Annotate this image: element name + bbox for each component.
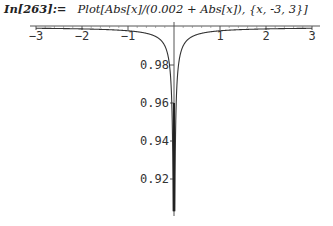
y-tick-label: 0.92 [140, 172, 169, 186]
y-tick-label: 0.94 [140, 134, 169, 148]
y-tick-label: 0.96 [140, 96, 169, 110]
x-tick-label: −3 [29, 29, 43, 43]
x-tick-label: 2 [262, 29, 269, 43]
curve-right [175, 28, 312, 211]
plot-area: −3−2−11230.920.940.960.98 [0, 0, 333, 226]
x-tick-label: 3 [308, 29, 315, 43]
y-tick-label: 0.98 [140, 58, 169, 72]
x-tick-label: −2 [75, 29, 89, 43]
